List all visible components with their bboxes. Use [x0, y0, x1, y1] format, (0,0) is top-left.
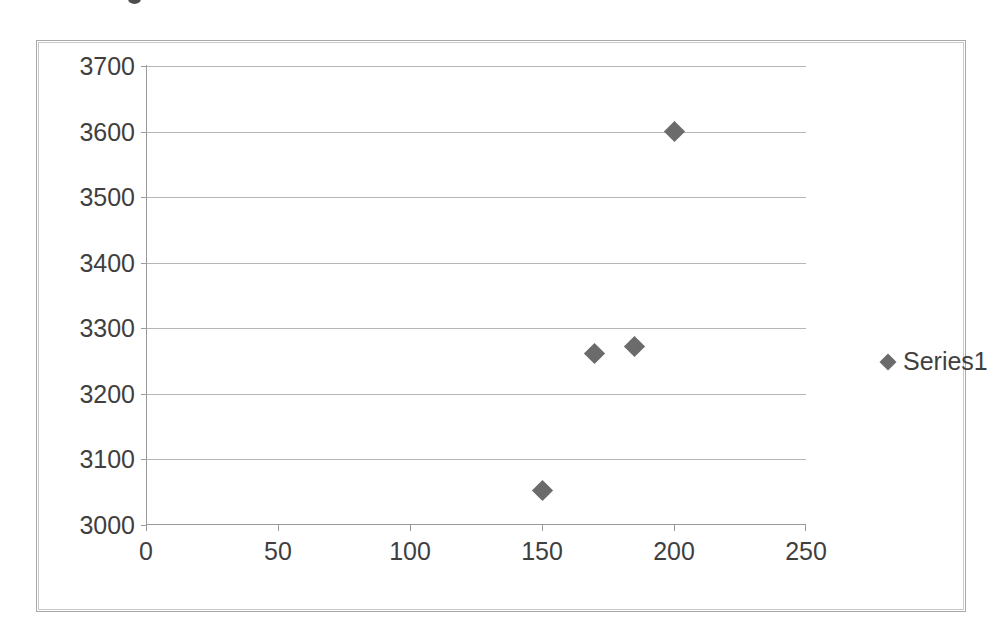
chart-frame: 30003100320033003400350036003700 0501001… [36, 40, 966, 612]
x-axis-tick [542, 525, 543, 531]
gridline [146, 66, 806, 67]
legend-entry-label: Series1 [903, 349, 988, 374]
gridline [146, 459, 806, 460]
gridline [146, 132, 806, 133]
x-axis-tick-label: 50 [264, 539, 292, 564]
gridline [146, 197, 806, 198]
x-axis-end-cap [805, 525, 806, 531]
gridline [146, 394, 806, 395]
legend: Series1 [882, 349, 988, 374]
y-axis-tick-label: 3300 [79, 316, 135, 341]
y-axis-tick [141, 132, 147, 133]
y-axis-tick-label: 3400 [79, 250, 135, 275]
data-point-marker [624, 336, 645, 357]
y-axis-tick [141, 394, 147, 395]
x-axis-tick [674, 525, 675, 531]
diamond-marker-icon [880, 353, 897, 370]
y-axis-tick-label: 3600 [79, 119, 135, 144]
data-point-marker [584, 343, 605, 364]
y-axis-tick [141, 459, 147, 460]
x-axis-line [146, 524, 806, 525]
x-axis-tick [410, 525, 411, 531]
y-axis-line [146, 65, 147, 525]
x-axis-tick-label: 100 [389, 539, 431, 564]
x-axis-tick [278, 525, 279, 531]
y-axis-tick-label: 3000 [79, 513, 135, 538]
y-axis-tick [141, 328, 147, 329]
y-axis-tick-label: 3700 [79, 54, 135, 79]
y-axis-tick [141, 197, 147, 198]
gridline [146, 263, 806, 264]
x-axis-tick [146, 525, 147, 531]
data-point-marker [663, 121, 684, 142]
y-axis-tick-label: 3500 [79, 185, 135, 210]
y-axis-tick [141, 66, 147, 67]
y-axis-tick [141, 263, 147, 264]
y-axis-tick-label: 3200 [79, 381, 135, 406]
plot-area: 30003100320033003400350036003700 0501001… [146, 66, 806, 525]
x-axis-tick-label: 0 [139, 539, 153, 564]
x-axis-tick-label: 150 [521, 539, 563, 564]
gridline [146, 328, 806, 329]
x-axis-tick-label: 200 [653, 539, 695, 564]
y-axis-tick-label: 3100 [79, 447, 135, 472]
data-point-marker [531, 480, 552, 501]
x-axis-tick-label: 250 [785, 539, 827, 564]
scan-artifact [128, 0, 141, 4]
